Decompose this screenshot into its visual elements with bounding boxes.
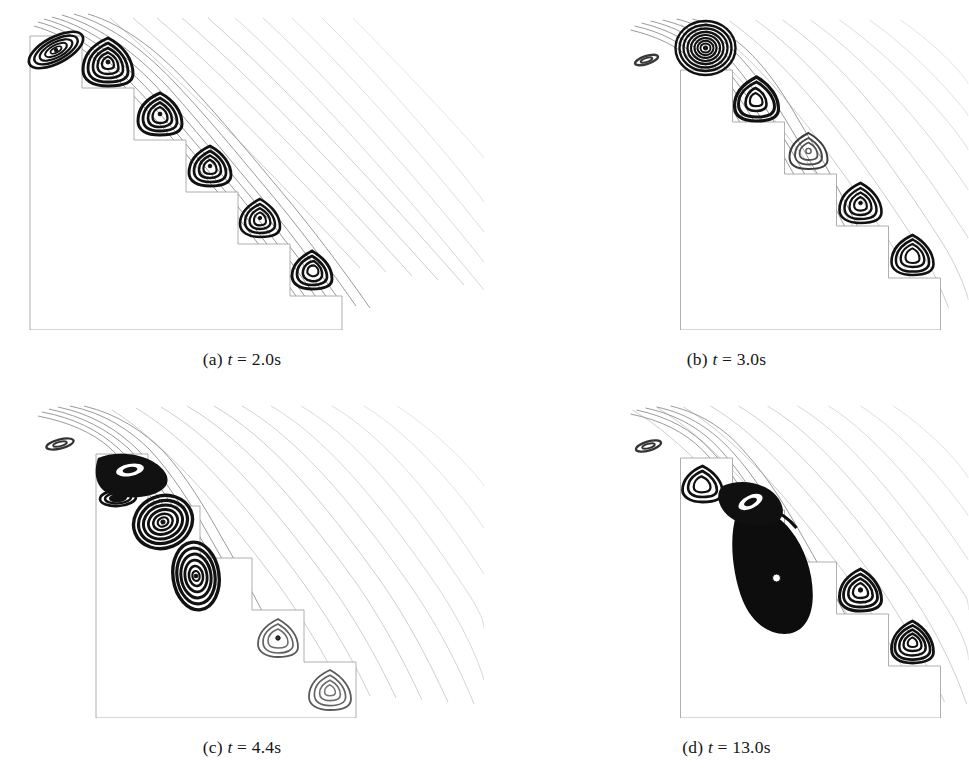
vortex-3 xyxy=(138,93,182,135)
streamline-plot-a xyxy=(0,0,484,330)
caption-a-variable: t xyxy=(227,349,232,369)
figure-grid: (a) t = 2.0s xyxy=(0,0,969,777)
panel-a: (a) t = 2.0s xyxy=(0,0,484,388)
caption-a: (a) t = 2.0s xyxy=(0,330,484,388)
vortex-5 xyxy=(892,621,934,663)
caption-c: (c) t = 4.4s xyxy=(0,718,484,776)
caption-b: (b) t = 3.0s xyxy=(484,330,969,388)
vortex-2 xyxy=(83,38,133,86)
panel-b: (b) t = 3.0s xyxy=(484,0,969,388)
panel-c: (c) t = 4.4s xyxy=(0,388,484,777)
caption-c-equals: = xyxy=(237,737,247,757)
caption-d-variable: t xyxy=(708,737,713,757)
streamline-plot-b xyxy=(484,0,969,330)
plot-b xyxy=(484,0,969,330)
caption-b-equals: = xyxy=(722,349,732,369)
plot-c xyxy=(0,388,484,718)
vortex-1 xyxy=(676,21,736,75)
caption-b-tag: (b) xyxy=(687,349,708,369)
step-geometry-b xyxy=(681,70,941,330)
caption-c-value: 4.4s xyxy=(252,737,282,757)
caption-a-tag: (a) xyxy=(203,349,223,369)
plot-d xyxy=(484,388,969,718)
vortex-4 xyxy=(840,183,882,223)
vortex-6 xyxy=(292,251,332,289)
step-geometry-a xyxy=(30,36,342,330)
vortex-3 xyxy=(790,133,828,169)
caption-d: (d) t = 13.0s xyxy=(484,718,969,776)
streamline-plot-d xyxy=(484,388,969,718)
vortex-4 xyxy=(189,146,231,186)
panel-d: (d) t = 13.0s xyxy=(484,388,969,777)
caption-c-tag: (c) xyxy=(203,737,223,757)
plot-a xyxy=(0,0,484,330)
caption-d-tag: (d) xyxy=(682,737,703,757)
caption-a-equals: = xyxy=(237,349,247,369)
caption-b-variable: t xyxy=(712,349,717,369)
caption-d-equals: = xyxy=(718,737,728,757)
caption-b-value: 3.0s xyxy=(737,349,767,369)
crest-vortex-b xyxy=(634,52,659,67)
streamline-plot-c xyxy=(0,388,484,718)
caption-c-variable: t xyxy=(227,737,232,757)
vortex-5 xyxy=(892,235,934,275)
vortex-5 xyxy=(240,199,280,237)
crest-vortex-d xyxy=(635,438,662,454)
crest-vortex-c xyxy=(45,436,74,452)
caption-d-value: 13.0s xyxy=(732,737,770,757)
caption-a-value: 2.0s xyxy=(252,349,282,369)
